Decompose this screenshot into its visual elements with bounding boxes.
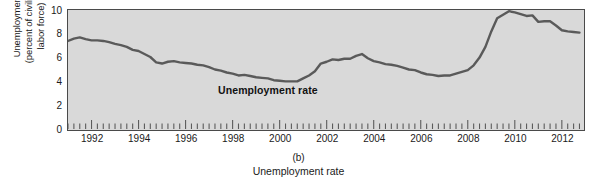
series-annotation-label: Unemployment rate [218, 84, 318, 96]
x-tick-label: 2002 [304, 133, 350, 145]
y-axis-title-line-2: (percent of civilian [23, 0, 35, 63]
figure-caption: (b) Unemployment rate [0, 151, 597, 178]
minor-tick-marks [68, 120, 579, 129]
x-tick-label: 2006 [398, 133, 444, 145]
y-tick-label: 8 [42, 29, 62, 39]
x-tick-label: 2008 [445, 133, 491, 145]
x-tick-label: 1998 [210, 133, 256, 145]
y-axis-title-line-1: Unemployment [11, 0, 23, 57]
y-tick-label: 2 [42, 101, 62, 111]
plot-area [67, 9, 585, 131]
x-tick-label: 2004 [351, 133, 397, 145]
panel-identifier: (b) [0, 151, 597, 164]
unemployment-rate-chart-figure: Unemployment (percent of civilian labor … [0, 0, 597, 183]
x-tick-label: 2012 [539, 133, 585, 145]
y-tick-label: 4 [42, 77, 62, 87]
caption-text: Unemployment rate [0, 164, 597, 178]
x-tick-label: 1992 [69, 133, 115, 145]
y-tick-label: 6 [42, 53, 62, 63]
y-tick-label: 10 [42, 6, 62, 16]
x-tick-label: 1996 [163, 133, 209, 145]
x-tick-label: 1994 [116, 133, 162, 145]
x-tick-label: 2000 [257, 133, 303, 145]
x-axis-tick-labels: 1992199419961998200020022004200620082010… [0, 133, 597, 149]
unemployment-rate-line-svg [68, 10, 583, 129]
unemployment-rate-line [68, 11, 579, 81]
x-tick-label: 2010 [492, 133, 538, 145]
